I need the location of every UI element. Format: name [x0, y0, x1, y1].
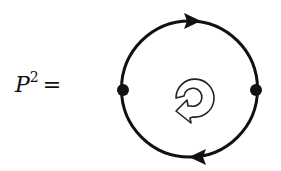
loop-diagram [0, 0, 281, 171]
left-vertex-dot [117, 84, 129, 96]
right-vertex-dot [250, 84, 262, 96]
clockwise-circular-arrow-icon [176, 79, 214, 123]
